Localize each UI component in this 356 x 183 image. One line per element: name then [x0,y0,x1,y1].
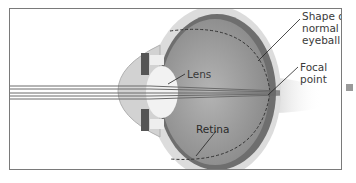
label-focal-point: Focal point [300,61,327,85]
diagram-frame: Lens Shape of normal eyeball Focal point… [9,8,342,170]
iris-lower [141,109,149,131]
eye-cross-section-illustration [10,9,342,170]
label-retina: Retina [196,123,229,135]
iris-upper [141,53,149,75]
label-shape-of-normal-eyeball: Shape of normal eyeball [302,10,342,46]
gray-square-marker [346,84,353,91]
lens [146,66,178,118]
label-lens: Lens [187,68,211,80]
